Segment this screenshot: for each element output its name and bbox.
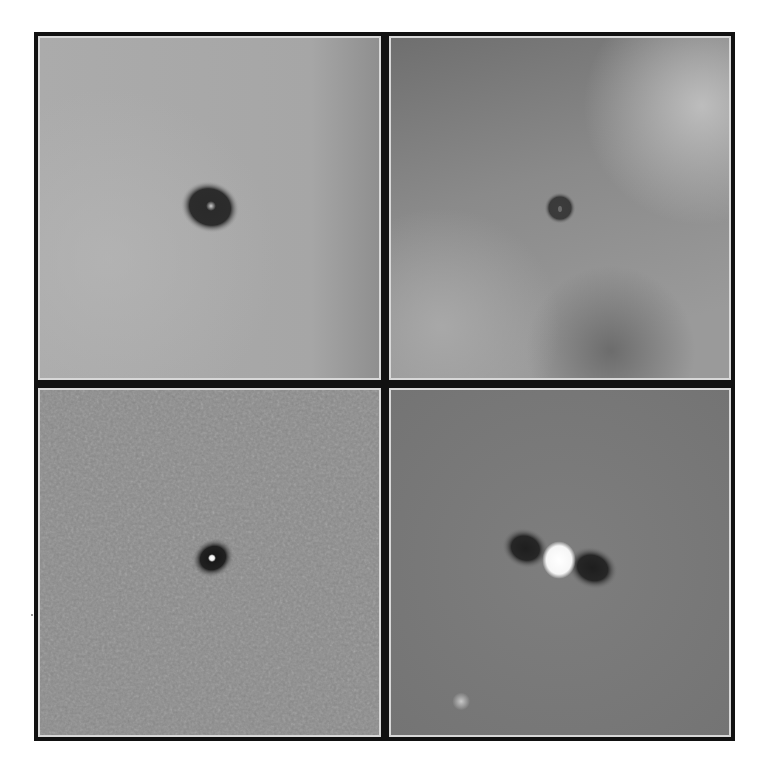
galaxy-image-4 xyxy=(391,390,729,735)
galaxy-image-3 xyxy=(40,390,379,735)
image-grid-frame xyxy=(34,32,735,741)
panel-bottom-right xyxy=(389,388,731,737)
galaxy-image-1 xyxy=(40,38,379,378)
galaxy-image-2 xyxy=(391,38,729,378)
panel-top-right xyxy=(389,36,731,380)
edge-mark xyxy=(31,614,33,616)
panel-bottom-left xyxy=(38,388,381,737)
panel-top-left xyxy=(38,36,381,380)
